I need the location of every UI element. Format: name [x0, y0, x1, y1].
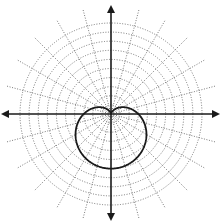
grid-ray: [111, 60, 205, 114]
grid-ray: [111, 86, 215, 114]
grid-ray: [83, 10, 111, 114]
grid-ray: [111, 10, 139, 114]
grid-ray: [111, 20, 165, 114]
grid-ray: [57, 114, 111, 208]
grid-ray: [111, 114, 187, 190]
grid-ray: [7, 114, 111, 142]
arrow-up-icon: [107, 5, 115, 13]
arrow-right-icon: [212, 110, 220, 118]
grid-ray: [57, 20, 111, 114]
grid-ray: [17, 60, 111, 114]
grid-ray: [35, 114, 111, 190]
grid-ray: [111, 38, 187, 114]
arrow-left-icon: [1, 110, 9, 118]
grid-ray: [111, 114, 165, 208]
grid-ray: [7, 86, 111, 114]
arrow-down-icon: [107, 213, 115, 221]
grid-ray: [17, 114, 111, 168]
grid-ray: [111, 114, 205, 168]
grid-ray: [111, 114, 215, 142]
grid-ray: [35, 38, 111, 114]
polar-plot: [0, 0, 222, 222]
